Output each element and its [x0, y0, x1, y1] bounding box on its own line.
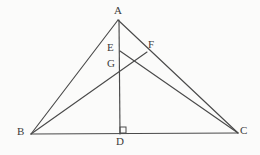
segment-side-bc	[31, 133, 238, 134]
geometry-figure: ABCDEFG	[0, 0, 260, 155]
vertex-label-e: E	[107, 42, 114, 53]
vertex-label-g: G	[107, 58, 115, 69]
vertex-label-c: C	[240, 125, 247, 136]
right-angle-at-d	[120, 127, 126, 133]
vertex-label-d: D	[116, 136, 124, 147]
segment-side-ab	[31, 20, 118, 134]
vertex-label-b: B	[17, 126, 24, 137]
vertex-label-a: A	[114, 5, 122, 16]
segment-cevian-ec	[120, 51, 238, 133]
figure-canvas	[0, 0, 260, 155]
vertex-label-f: F	[148, 39, 154, 50]
segment-side-ac	[118, 20, 238, 133]
right-angle-group	[120, 127, 126, 133]
segments-group	[31, 20, 238, 134]
segment-cevian-bf	[31, 52, 147, 134]
segment-altitude-ad	[119, 20, 120, 134]
